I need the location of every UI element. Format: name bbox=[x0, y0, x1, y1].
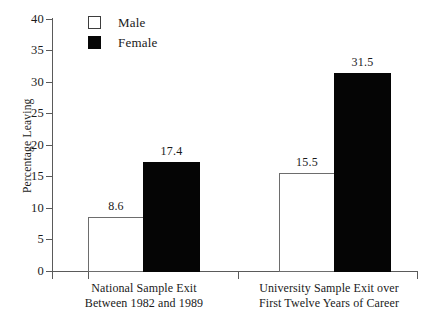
open-square-swatch-icon bbox=[88, 16, 101, 29]
y-tick-label-10: 10 bbox=[10, 202, 44, 215]
legend-item-female: Female bbox=[88, 32, 157, 52]
bar-group-0-male bbox=[88, 217, 144, 272]
y-tick-mark-10 bbox=[46, 208, 52, 209]
legend-item-male: Male bbox=[88, 12, 157, 32]
legend: Male Female bbox=[88, 12, 157, 52]
filled-square-swatch-icon bbox=[88, 36, 101, 49]
x-axis-category-label-0-line-2: Between 1982 and 1989 bbox=[44, 296, 244, 311]
plot-area: Percentage Leaving 40 35 30 25 20 15 10 … bbox=[0, 0, 427, 321]
x-axis-category-label-0: National Sample Exit Between 1982 and 19… bbox=[44, 281, 244, 311]
bar-group-1-female bbox=[334, 73, 391, 272]
y-tick-mark-15 bbox=[46, 176, 52, 177]
x-tick-mark-group-separator bbox=[238, 272, 239, 279]
x-axis-category-label-1: University Sample Exit over First Twelve… bbox=[231, 281, 427, 311]
x-tick-mark-origin bbox=[52, 272, 53, 279]
y-tick-label-20: 20 bbox=[10, 139, 44, 152]
y-tick-label-25: 25 bbox=[10, 107, 44, 120]
y-tick-label-30: 30 bbox=[10, 76, 44, 89]
x-axis-category-label-0-line-1: National Sample Exit bbox=[44, 281, 244, 296]
y-tick-label-40: 40 bbox=[10, 13, 44, 26]
y-tick-mark-25 bbox=[46, 113, 52, 114]
y-tick-label-5: 5 bbox=[10, 233, 44, 246]
y-axis-line bbox=[52, 18, 53, 272]
y-tick-mark-35 bbox=[46, 50, 52, 51]
bar-value-label-group-1-male: 15.5 bbox=[277, 156, 337, 168]
bar-chart-figure: Percentage Leaving 40 35 30 25 20 15 10 … bbox=[0, 0, 427, 321]
y-tick-mark-20 bbox=[46, 145, 52, 146]
y-tick-label-35: 35 bbox=[10, 44, 44, 57]
bar-value-label-group-0-female: 17.4 bbox=[141, 145, 202, 157]
y-tick-label-15: 15 bbox=[10, 170, 44, 183]
bar-value-label-group-1-female: 31.5 bbox=[332, 56, 393, 68]
legend-label-male: Male bbox=[118, 16, 146, 29]
x-tick-mark-group-0-start bbox=[88, 272, 89, 279]
y-tick-mark-30 bbox=[46, 82, 52, 83]
x-axis-category-label-1-line-2: First Twelve Years of Career bbox=[231, 296, 427, 311]
y-tick-mark-5 bbox=[46, 239, 52, 240]
bar-group-1-male bbox=[279, 173, 335, 272]
bar-group-0-female bbox=[143, 162, 200, 272]
x-tick-mark-end bbox=[417, 272, 418, 279]
y-tick-label-0: 0 bbox=[10, 265, 44, 278]
bar-value-label-group-0-male: 8.6 bbox=[86, 200, 146, 212]
x-axis-category-label-1-line-1: University Sample Exit over bbox=[231, 281, 427, 296]
y-tick-mark-40 bbox=[46, 19, 52, 20]
legend-label-female: Female bbox=[118, 36, 157, 49]
